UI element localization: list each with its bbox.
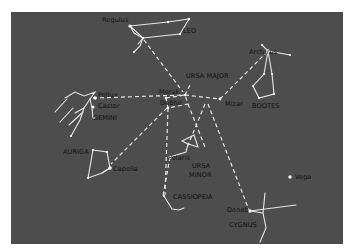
star-label-dubhe: Dubhe [160,100,182,107]
star-label-mizar: Mizar [225,101,243,108]
constellation-lines [11,12,343,244]
star-label-arcturus: Arcturus [249,49,277,56]
star-label-deneb: Deneb [227,207,249,214]
star-label-regulus: Regulus [102,17,128,24]
constellation-label-bootes: BOOTES [252,103,279,110]
star-label-polaris: Polaris [168,155,190,162]
star-map: Regulus LEO URSA MAJOR Arcturus Merak Du… [11,12,343,244]
constellation-label-gemini: GEMINI [93,115,117,122]
constellation-label-ursa-minor-line1: URSA [192,163,210,170]
star-label-vega: Vega [295,174,311,181]
constellation-label-leo: LEO [183,28,196,35]
constellation-label-cassiopeia: CASSIOPEIA [173,194,213,201]
star-label-capella: Capella [113,166,138,173]
star-label-castor: Castor [98,103,120,110]
constellation-label-cygnus: CYGNUS [229,222,257,229]
constellation-label-ursa-minor-line2: MINOR [189,172,212,179]
constellation-label-ursa-major: URSA MAJOR [186,73,229,80]
star-label-pollux: Pollux [98,92,118,99]
star-label-merak: Merak [159,89,180,96]
constellation-label-auriga: AURIGA [63,149,89,156]
